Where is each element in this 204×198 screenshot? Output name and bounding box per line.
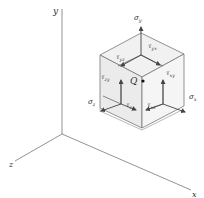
x-axis-label: x — [192, 190, 197, 198]
z-axis — [15, 134, 62, 161]
sigma-z-label: σz — [88, 98, 96, 107]
stress-element-diagram: y z x Q σy — [0, 0, 204, 198]
sigma-x-label: σx — [189, 93, 197, 102]
point-q-label: Q — [130, 76, 138, 86]
z-axis-label: z — [8, 160, 14, 169]
y-axis-label: y — [52, 6, 59, 16]
x-axis — [62, 134, 191, 190]
point-q-dot — [141, 79, 144, 82]
sigma-y-label: σy — [134, 14, 142, 24]
